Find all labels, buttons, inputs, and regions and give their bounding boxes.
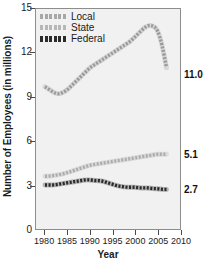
x-tick-mark (135, 230, 136, 235)
legend-swatch-local (40, 14, 66, 19)
legend-label-state: State (71, 23, 94, 33)
x-tick-mark (158, 230, 159, 235)
x-tick-mark (67, 230, 68, 235)
x-tick-mark (44, 230, 45, 235)
x-tick-mark (113, 230, 114, 235)
x-tick-mark (181, 230, 182, 235)
series-end-label-state: 5.1 (184, 149, 198, 160)
series-end-label-local: 11.0 (184, 69, 203, 80)
legend-swatch-state (40, 25, 66, 30)
y-tick-label-group: 03691215 (12, 0, 32, 232)
chart-legend: Local State Federal (40, 11, 118, 44)
legend-label-local: Local (71, 12, 95, 22)
x-tick-mark (90, 230, 91, 235)
x-tick-label: 2010 (166, 236, 196, 246)
y-tick-label: 0 (14, 225, 32, 235)
legend-item-state: State (40, 22, 118, 33)
series-end-label-federal: 2.7 (184, 184, 198, 195)
x-axis-title: Year (35, 249, 181, 260)
legend-item-federal: Federal (40, 33, 118, 44)
employment-line-chart: Number of Employees (in millions) 036912… (0, 0, 204, 266)
legend-swatch-federal (40, 36, 66, 42)
legend-label-federal: Federal (71, 34, 105, 44)
legend-item-local: Local (40, 11, 118, 22)
